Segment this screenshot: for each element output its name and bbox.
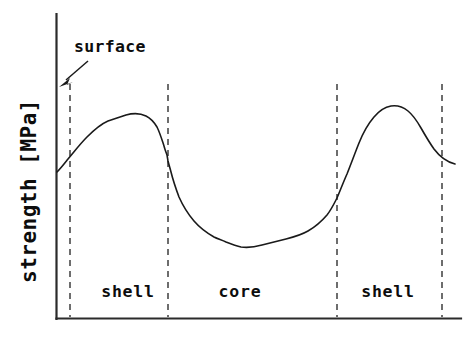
plot-canvas: surface strength [MPa] shell core shell bbox=[0, 0, 475, 339]
y-axis-label: strength [MPa] bbox=[17, 99, 41, 283]
region-label-shell-right: shell bbox=[361, 282, 415, 301]
region-label-core: core bbox=[219, 282, 262, 301]
strength-profile-curve bbox=[57, 106, 455, 248]
strength-profile-figure: surface strength [MPa] shell core shell bbox=[0, 0, 475, 339]
region-label-shell-left: shell bbox=[101, 282, 155, 301]
surface-annotation-arrow bbox=[66, 61, 88, 80]
surface-label: surface bbox=[74, 37, 146, 56]
